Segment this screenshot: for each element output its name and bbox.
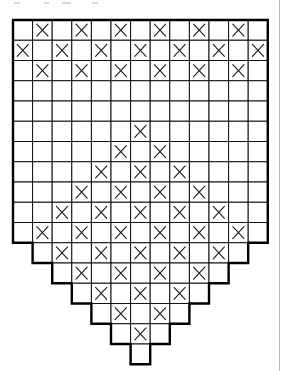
pattern-cell (248, 101, 268, 121)
pattern-cell (13, 182, 33, 202)
pattern-cell (229, 101, 249, 121)
pattern-cell (150, 162, 170, 182)
pattern-cell (150, 283, 170, 303)
pattern-cell (52, 101, 72, 121)
pattern-cell (150, 202, 170, 222)
pattern-cell (72, 81, 92, 101)
pattern-cell (189, 121, 209, 141)
pattern-cell (111, 324, 131, 344)
pattern-cell (131, 304, 151, 324)
pattern-cell (111, 263, 131, 283)
pattern-cell (229, 182, 249, 202)
pattern-cell (170, 243, 190, 263)
pattern-cell (111, 283, 131, 303)
pattern-cell (209, 263, 229, 283)
pattern-cell (91, 81, 111, 101)
pattern-cell (131, 20, 151, 40)
pattern-cell (150, 101, 170, 121)
pattern-cell (91, 101, 111, 121)
pattern-cell (91, 223, 111, 243)
pattern-cell (189, 283, 209, 303)
pattern-cell (72, 142, 92, 162)
pattern-cell (209, 20, 229, 40)
pattern-cell (13, 101, 33, 121)
pattern-cell (52, 142, 72, 162)
pattern-cell (91, 263, 111, 283)
pattern-cell (131, 121, 151, 141)
pattern-cell (13, 162, 33, 182)
pattern-cell (189, 40, 209, 60)
pattern-cell (229, 81, 249, 101)
pattern-cell (170, 142, 190, 162)
pattern-cell (91, 182, 111, 202)
pattern-cell (111, 142, 131, 162)
pattern-cell (170, 202, 190, 222)
pattern-cell (33, 121, 53, 141)
pattern-cell (72, 283, 92, 303)
pattern-cell (52, 202, 72, 222)
pattern-cell (72, 121, 92, 141)
pattern-cell (131, 202, 151, 222)
pattern-cell (170, 61, 190, 81)
pattern-cell (229, 202, 249, 222)
pattern-cell (229, 142, 249, 162)
pattern-cell (91, 283, 111, 303)
pattern-cell (170, 263, 190, 283)
pattern-cell (13, 20, 33, 40)
pattern-cell (72, 40, 92, 60)
pattern-cell (248, 142, 268, 162)
pattern-cell (150, 20, 170, 40)
pattern-cell (189, 182, 209, 202)
pattern-cell (229, 40, 249, 60)
pattern-cell (52, 243, 72, 263)
pattern-cell (170, 121, 190, 141)
pattern-cell (170, 223, 190, 243)
pattern-cell (248, 61, 268, 81)
pattern-cell (33, 61, 53, 81)
pattern-cell (131, 61, 151, 81)
pattern-cell (209, 162, 229, 182)
pattern-cell (33, 81, 53, 101)
pattern-cell (91, 162, 111, 182)
pattern-cell (150, 263, 170, 283)
pattern-cell (150, 324, 170, 344)
pattern-cell (13, 142, 33, 162)
pattern-cell (131, 223, 151, 243)
pattern-cell (170, 182, 190, 202)
pattern-cell (52, 162, 72, 182)
pattern-cell (13, 121, 33, 141)
pattern-cell (131, 243, 151, 263)
pattern-cell (150, 243, 170, 263)
pattern-cell (91, 243, 111, 263)
pattern-cell (131, 324, 151, 344)
pattern-cell (150, 121, 170, 141)
pattern-cell (229, 162, 249, 182)
pattern-cell (209, 81, 229, 101)
pattern-cell (52, 223, 72, 243)
pattern-cell (111, 162, 131, 182)
pattern-cell (91, 40, 111, 60)
pattern-cell (209, 223, 229, 243)
pattern-cell (131, 344, 151, 364)
pattern-cell (111, 243, 131, 263)
pattern-cell (229, 223, 249, 243)
pattern-cell (189, 61, 209, 81)
pattern-cell (189, 162, 209, 182)
pattern-cell (209, 182, 229, 202)
pattern-cell (33, 223, 53, 243)
pattern-cell (13, 202, 33, 222)
pattern-cell (72, 182, 92, 202)
pattern-cell (33, 40, 53, 60)
pattern-cell (248, 162, 268, 182)
pattern-cell (33, 101, 53, 121)
pattern-cell (52, 40, 72, 60)
pattern-cell (189, 20, 209, 40)
pattern-cell (209, 61, 229, 81)
pattern-cell (248, 20, 268, 40)
pattern-cell (91, 20, 111, 40)
pattern-cell (209, 142, 229, 162)
pattern-cell (33, 142, 53, 162)
pattern-cell (150, 61, 170, 81)
pattern-cell (170, 162, 190, 182)
pattern-cell (170, 304, 190, 324)
